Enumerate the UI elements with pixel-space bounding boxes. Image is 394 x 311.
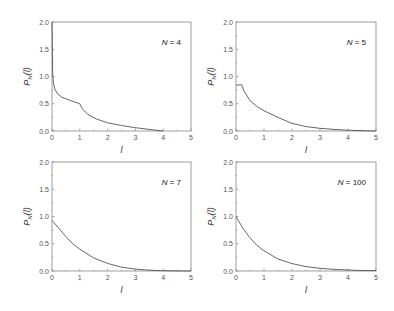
- x-tick-label: 5: [189, 274, 193, 281]
- x-tick-label: 3: [133, 134, 137, 141]
- n-annotation: N = 5: [347, 38, 367, 47]
- y-tick-label: 2.0: [223, 159, 233, 166]
- chart-panel-3: 0123450.00.51.01.52.0N = 7lPN(l): [22, 159, 193, 296]
- x-axis-label: l: [121, 285, 124, 295]
- x-tick-label: 4: [161, 134, 165, 141]
- x-tick-label: 4: [346, 134, 350, 141]
- y-axis-label: PN(l): [206, 207, 217, 225]
- y-tick-label: 2.0: [223, 19, 233, 26]
- y-tick-label: 2.0: [39, 19, 49, 26]
- x-tick-label: 4: [346, 274, 350, 281]
- x-axis-label: l: [121, 145, 124, 155]
- x-tick-label: 0: [234, 274, 238, 281]
- x-axis-label: l: [305, 145, 308, 155]
- x-tick-label: 3: [318, 134, 322, 141]
- y-tick-label: 0.0: [39, 268, 49, 275]
- n-annotation: N = 4: [162, 38, 182, 47]
- y-tick-label: 0.0: [223, 128, 233, 135]
- chart-panel-2: 0123450.00.51.01.52.0N = 5lPN(l): [206, 19, 378, 156]
- y-tick-label: 1.0: [223, 213, 233, 220]
- y-tick-label: 0.0: [223, 268, 233, 275]
- y-tick-label: 0.5: [223, 240, 233, 247]
- x-tick-label: 3: [318, 274, 322, 281]
- x-tick-label: 2: [290, 134, 294, 141]
- x-tick-label: 1: [262, 274, 266, 281]
- x-tick-label: 4: [161, 274, 165, 281]
- y-tick-label: 1.0: [39, 73, 49, 80]
- x-tick-label: 0: [50, 134, 54, 141]
- y-tick-label: 1.0: [39, 213, 49, 220]
- x-tick-label: 2: [290, 274, 294, 281]
- data-curve: [52, 22, 163, 131]
- data-curve: [236, 85, 376, 131]
- chart-panel-4: 0123450.00.51.01.52.0N = 100lPN(l): [206, 159, 378, 296]
- y-axis-label: PN(l): [22, 207, 33, 225]
- y-tick-label: 2.0: [39, 159, 49, 166]
- data-curve: [236, 217, 376, 271]
- x-tick-label: 1: [262, 134, 266, 141]
- y-axis-label: PN(l): [22, 67, 33, 85]
- n-annotation: N = 7: [162, 178, 182, 187]
- x-tick-label: 5: [374, 274, 378, 281]
- x-tick-label: 5: [189, 134, 193, 141]
- y-tick-label: 0.5: [223, 100, 233, 107]
- figure: 0123450.00.51.01.52.0N = 4lPN(l)0123450.…: [0, 0, 394, 311]
- y-axis-label: PN(l): [206, 67, 217, 85]
- x-tick-label: 2: [106, 274, 110, 281]
- x-tick-label: 5: [374, 134, 378, 141]
- y-tick-label: 1.5: [39, 46, 49, 53]
- y-tick-label: 0.5: [39, 100, 49, 107]
- data-curve: [52, 220, 191, 271]
- x-tick-label: 1: [78, 134, 82, 141]
- y-tick-label: 0.5: [39, 240, 49, 247]
- x-tick-label: 1: [78, 274, 82, 281]
- x-tick-label: 2: [106, 134, 110, 141]
- chart-panel-1: 0123450.00.51.01.52.0N = 4lPN(l): [22, 19, 193, 156]
- y-tick-label: 1.0: [223, 73, 233, 80]
- y-tick-label: 1.5: [223, 46, 233, 53]
- y-tick-label: 1.5: [39, 186, 49, 193]
- x-tick-label: 0: [50, 274, 54, 281]
- y-tick-label: 0.0: [39, 128, 49, 135]
- y-tick-label: 1.5: [223, 186, 233, 193]
- x-tick-label: 0: [234, 134, 238, 141]
- n-annotation: N = 100: [338, 178, 367, 187]
- x-tick-label: 3: [133, 274, 137, 281]
- x-axis-label: l: [305, 285, 308, 295]
